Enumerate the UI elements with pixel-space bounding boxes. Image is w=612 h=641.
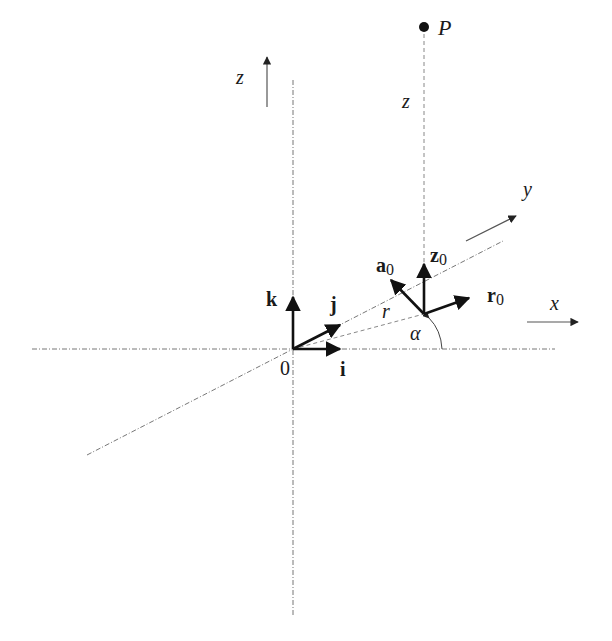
unit-vector-i-label: i [340,358,346,380]
y-axis-label: y [521,178,532,201]
point-p-label: P [437,15,451,40]
radius-line [293,314,424,349]
point-p-icon [419,22,429,32]
x-axis-label: x [549,292,559,314]
angle-alpha-label: α [410,322,421,344]
unit-vector-a0 [391,280,424,314]
unit-vector-z0-label: z0 [430,244,447,268]
cylindrical-coordinates-diagram: z x y 0 P z i j k z0 a0 r0 r α [0,0,612,641]
unit-vector-j-label: j [329,293,337,316]
radius-label: r [382,300,390,322]
unit-vector-k-label: k [266,288,278,310]
height-z-label: z [401,90,410,112]
z-axis-label: z [235,66,244,88]
unit-vector-r0 [424,298,469,314]
angle-alpha-arc [429,318,442,349]
unit-vector-r0-label: r0 [487,284,504,308]
y-direction-arrow [466,216,516,241]
origin-label: 0 [280,357,290,379]
unit-vector-a0-label: a0 [376,254,394,278]
unit-vector-j [293,325,340,349]
